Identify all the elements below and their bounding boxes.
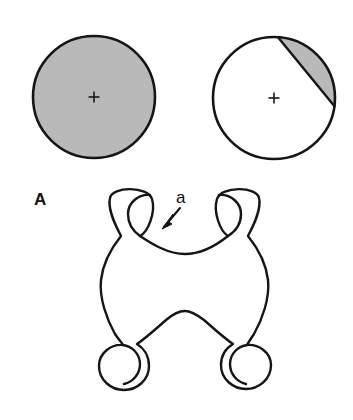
feature-label-a: a xyxy=(176,188,186,207)
partially-shaded-circle xyxy=(213,37,335,159)
figure-illustration: A a xyxy=(0,0,353,420)
annotation-arrow-head xyxy=(162,214,173,229)
fully-shaded-circle xyxy=(33,36,155,158)
four-legged-saddle-shape xyxy=(99,189,271,390)
saddle-body-outline xyxy=(99,189,271,390)
panel-label-a: A xyxy=(34,190,46,209)
figure-panel-a: A a xyxy=(0,0,353,420)
feature-annotation-a: a xyxy=(162,188,186,229)
